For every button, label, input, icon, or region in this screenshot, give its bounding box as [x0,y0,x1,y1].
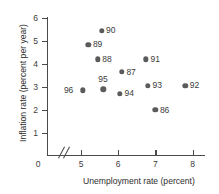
data-point [145,83,150,88]
data-point [143,57,148,62]
x-tick-label: 7 [148,160,162,169]
x-tick-label: 6 [111,160,125,169]
y-axis-title: Inflation rate (percent per year) [18,8,28,158]
data-point [86,42,91,47]
x-tick [193,150,194,156]
y-tick [42,87,48,88]
x-tick-label: 8 [186,160,200,169]
y-tick [42,41,48,42]
data-point-label: 88 [102,55,111,64]
data-point-label: 94 [125,89,134,98]
data-point-label: 92 [190,81,199,90]
data-point-label: 96 [64,86,73,95]
data-point [119,69,124,74]
data-point-label: 91 [151,55,160,64]
data-point [95,57,100,62]
data-point [182,83,187,88]
data-point [101,87,106,92]
x-tick [81,150,82,156]
data-point-label: 90 [106,26,115,35]
data-point-label: 89 [93,40,102,49]
y-tick [42,110,48,111]
data-point-label: 95 [98,75,107,84]
y-tick [42,18,48,19]
axis-origin-label: 0 [31,160,45,169]
x-tick [118,150,119,156]
y-tick [42,133,48,134]
data-point [153,107,158,112]
data-point [99,28,104,33]
x-tick [155,150,156,156]
data-point-label: 93 [153,81,162,90]
y-tick [42,64,48,65]
x-axis-title: Unemployment rate (percent) [60,176,218,186]
scatter-plot: 123456 5678 9089889187959693929486 0 Une… [0,0,219,194]
x-axis-break-icon [57,146,73,159]
x-tick-label: 5 [74,160,88,169]
data-point-label: 87 [126,68,135,77]
data-point-label: 86 [160,106,169,115]
data-point [117,91,122,96]
data-point [80,88,85,93]
